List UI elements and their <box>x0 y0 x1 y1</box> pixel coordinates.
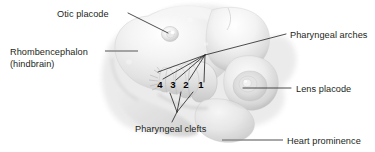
embryo-illustration: Otic placode Rhombencephalon (hindbrain)… <box>0 0 375 152</box>
lens-placode-core <box>243 79 251 87</box>
label-otic-placode: Otic placode <box>57 9 109 19</box>
arch-number-2: 2 <box>183 79 188 90</box>
label-pharyngeal-clefts: Pharyngeal clefts <box>135 124 207 134</box>
arch-number-4: 4 <box>157 79 163 90</box>
arch-number-3: 3 <box>170 79 175 90</box>
embryo-body-group <box>102 4 296 142</box>
arch-number-1: 1 <box>198 79 204 90</box>
label-hindbrain: (hindbrain) <box>10 59 54 69</box>
embryo-figure: Otic placode Rhombencephalon (hindbrain)… <box>0 0 375 152</box>
label-heart-prominence: Heart prominence <box>287 136 361 146</box>
label-lens-placode: Lens placode <box>296 84 351 94</box>
otic-highlight <box>171 31 175 34</box>
label-pharyngeal-arches: Pharyngeal arches <box>290 30 368 40</box>
lens-highlight <box>244 80 247 83</box>
label-rhombencephalon: Rhombencephalon <box>10 47 88 57</box>
